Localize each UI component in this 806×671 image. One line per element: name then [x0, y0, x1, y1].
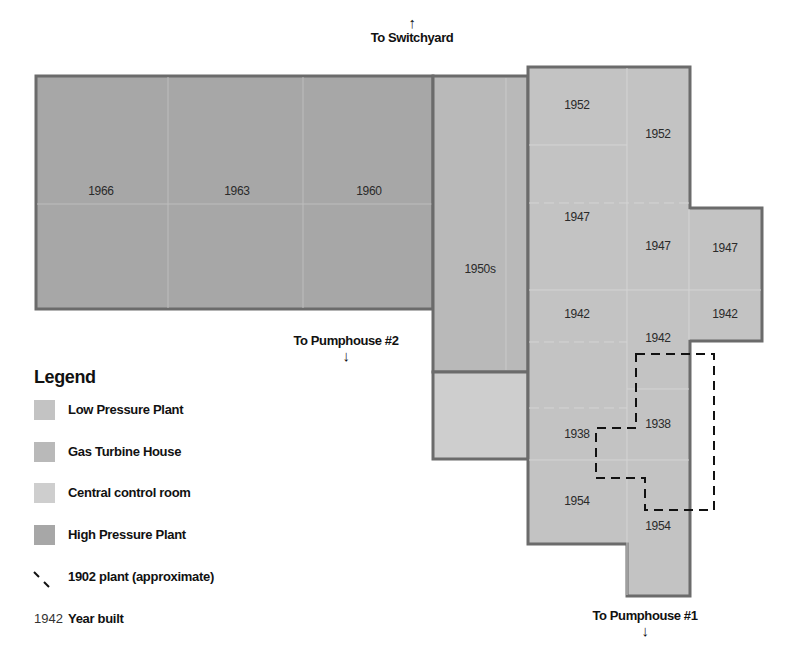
year-label: 1947 — [645, 239, 671, 253]
year-label: 1942 — [564, 307, 590, 321]
low-pressure-swatch — [34, 400, 55, 420]
year-label: 1960 — [356, 184, 382, 198]
direction-switchyard: ↑ To Switchyard — [371, 15, 454, 45]
legend-item-label: Year built — [68, 611, 124, 626]
gas-turbine-swatch — [34, 442, 55, 462]
legend-item-label: Low Pressure Plant — [68, 402, 183, 417]
control-room-swatch — [34, 483, 55, 503]
year-label: 1963 — [224, 184, 250, 198]
year-label: 1942 — [712, 307, 738, 321]
legend-item-label: Central control room — [68, 485, 191, 500]
central-control-room — [433, 372, 528, 459]
arrow-down-icon: ↓ — [593, 623, 698, 638]
direction-label: To Switchyard — [371, 30, 454, 45]
legend-item-label: 1902 plant (approximate) — [68, 569, 214, 584]
legend-title: Legend — [34, 367, 96, 388]
legend-item-label: Gas Turbine House — [68, 444, 181, 459]
high-pressure-swatch — [34, 525, 55, 545]
direction-pumphouse-2: To Pumphouse #2 ↓ — [294, 333, 399, 363]
direction-label: To Pumphouse #2 — [294, 333, 399, 348]
direction-pumphouse-1: To Pumphouse #1 ↓ — [593, 608, 698, 638]
year-label: 1938 — [564, 427, 590, 441]
year-label: 1950s — [464, 262, 495, 276]
year-label: 1952 — [564, 98, 590, 112]
year-sample: 1942 — [34, 611, 63, 626]
arrow-up-icon: ↑ — [371, 15, 454, 30]
year-label: 1954 — [564, 494, 590, 508]
arrow-down-icon: ↓ — [294, 348, 399, 363]
dashed-line-icon — [34, 572, 49, 587]
direction-label: To Pumphouse #1 — [593, 608, 698, 623]
year-label: 1947 — [712, 241, 738, 255]
year-label: 1947 — [564, 210, 590, 224]
year-label: 1942 — [645, 331, 671, 345]
gas-turbine-house — [433, 76, 528, 372]
year-label: 1954 — [645, 519, 671, 533]
year-label: 1952 — [645, 127, 671, 141]
year-label: 1966 — [88, 184, 114, 198]
legend-item-label: High Pressure Plant — [68, 527, 186, 542]
site-plan: 1966 1963 1960 1950s 1952 1952 1947 1947… — [0, 0, 806, 671]
year-label: 1938 — [645, 417, 671, 431]
